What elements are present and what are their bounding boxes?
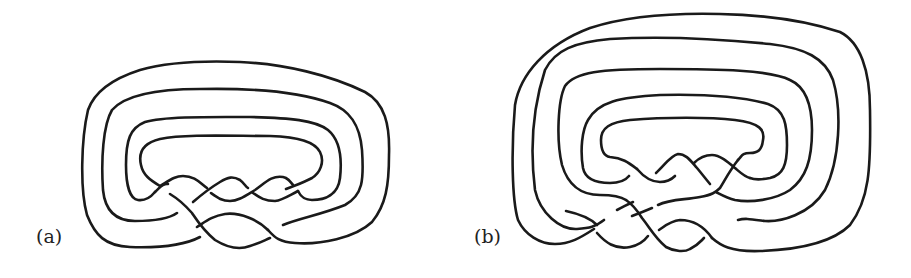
panel-label-a: (a) (36, 225, 62, 247)
panel-label-b: (b) (474, 225, 501, 247)
knot-figure: (a) (b) (0, 0, 911, 278)
knot-diagram-b (0, 0, 911, 278)
